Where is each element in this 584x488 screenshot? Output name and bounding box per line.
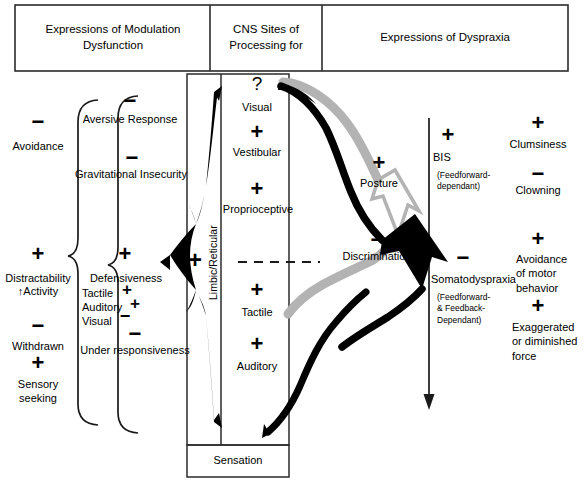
bis-sign: +: [433, 124, 463, 146]
tactile-label: Tactile: [230, 306, 284, 320]
header-modulation-label: Expressions of Modulation Dysfunction: [17, 22, 209, 53]
proprioceptive-label: Proprioceptive: [220, 203, 296, 217]
header-dyspraxia-label: Expressions of Dyspraxia: [380, 30, 510, 46]
aversive-response-label: Aversive Response: [74, 113, 186, 127]
exaggerated-force-sign: +: [506, 295, 570, 317]
distractability-sign: +: [5, 243, 71, 265]
modulation-plus-sign: +: [175, 248, 215, 272]
visual-sign: ?: [230, 74, 284, 93]
header-dyspraxia: Expressions of Dyspraxia: [324, 7, 566, 69]
clowning-label: Clowning: [500, 184, 576, 198]
avoidance-label: Avoidance: [0, 140, 76, 154]
proprioceptive-sign: +: [230, 178, 284, 200]
somatodyspraxia-label: Somatodyspraxia: [431, 272, 516, 286]
distractability-label: Distractability: [0, 272, 79, 286]
avoidance-motor-label: Avoidance of motor behavior: [516, 252, 578, 295]
somatodyspraxia-sign: −: [433, 252, 493, 264]
under-responsiveness-label: Under responsiveness: [70, 344, 200, 358]
withdrawn-sign: −: [5, 320, 71, 332]
tactile-sign: +: [230, 279, 284, 301]
posture-label: Posture: [350, 177, 408, 191]
under-responsiveness-sign: −: [80, 328, 190, 340]
clumsiness-label: Clumsiness: [498, 138, 578, 152]
avoidance-sign: −: [5, 116, 71, 128]
auditory-sign: +: [230, 333, 284, 355]
defensiveness-visual-label: Visual: [82, 314, 112, 328]
defensiveness-sign: +: [80, 243, 170, 265]
gravitational-insecurity-label: Gravitational Insecurity: [70, 168, 192, 182]
defensiveness-tactile-label: Tactile: [82, 286, 113, 300]
aversive-response-sign: −: [78, 95, 182, 107]
header-cns: CNS Sites of Processing for: [212, 7, 320, 69]
posture-sign: +: [356, 152, 402, 174]
avoidance-motor-sign: +: [506, 228, 570, 250]
header-cns-label: CNS Sites of Processing for: [212, 22, 320, 53]
somatodyspraxia-note: (Feedforward- & Feedback-Dependant): [437, 292, 497, 326]
vestibular-sign: +: [230, 121, 284, 143]
clowning-sign: −: [506, 168, 570, 180]
bis-label: BIS: [433, 150, 451, 164]
sensory-seeking-label: Sensory seeking: [6, 378, 70, 406]
gravitational-insecurity-sign: −: [78, 152, 186, 164]
auditory-label: Auditory: [228, 360, 286, 374]
exaggerated-force-label: Exaggerated or diminished force: [512, 320, 582, 363]
diagram-canvas: Expressions of Modulation Dysfunction CN…: [0, 0, 584, 488]
sensation-label: Sensation: [187, 454, 289, 468]
header-modulation: Expressions of Modulation Dysfunction: [17, 7, 209, 69]
discrimination-label: Discrimination: [331, 250, 423, 264]
sensory-seeking-sign: +: [5, 352, 71, 374]
clumsiness-sign: +: [506, 112, 570, 134]
vestibular-label: Vestibular: [226, 146, 288, 160]
black-discrimination-arrow-top: [278, 84, 448, 347]
visual-label: Visual: [230, 101, 284, 115]
discrimination-sign: −: [340, 234, 414, 246]
activity-label: ↑Activity: [0, 285, 79, 299]
bis-note: (Feedforward-dependant): [437, 170, 493, 193]
